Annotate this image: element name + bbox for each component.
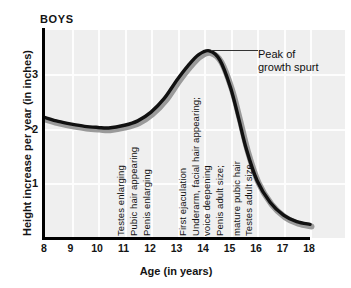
puberty-event-annotation: Penis enlarging <box>141 169 152 236</box>
peak-callout: Peak of growth spurt <box>258 48 319 74</box>
x-axis-tick-label: 11 <box>118 242 129 254</box>
puberty-event-annotation: Testes adult size <box>243 164 254 236</box>
x-axis-tick-label: 13 <box>171 242 183 254</box>
x-axis-tick-label: 16 <box>250 242 262 254</box>
x-axis-tick-label: 14 <box>197 242 209 254</box>
x-axis-tick-label: 10 <box>91 242 103 254</box>
y-axis-tick-label: 2 <box>14 123 38 135</box>
x-axis-tick-label: 18 <box>303 242 315 254</box>
x-axis-tick-label: 9 <box>68 242 74 254</box>
puberty-event-annotation: Underarm, facial hair appearing; <box>190 97 201 236</box>
puberty-event-annotation: voice deepening <box>201 165 212 236</box>
x-axis-tick-label: 15 <box>224 242 236 254</box>
peak-callout-line2: growth spurt <box>258 61 319 74</box>
x-axis-tick-label: 8 <box>41 242 47 254</box>
growth-rate-chart: BOYS Height increase per year (in inches… <box>0 0 351 288</box>
x-axis-tick-label: 17 <box>277 242 289 254</box>
peak-callout-line1: Peak of <box>258 48 319 61</box>
puberty-event-annotation: mature pubic hair <box>231 161 242 236</box>
y-axis-tick-label: 3 <box>14 68 38 80</box>
y-axis-ticks: 321 <box>12 0 38 288</box>
y-axis-line <box>42 28 45 240</box>
x-axis-line <box>42 237 310 240</box>
puberty-event-annotation: Penis adult size; <box>214 165 225 236</box>
callout-leader-line <box>211 50 258 52</box>
puberty-event-annotation: First ejaculation <box>177 168 188 236</box>
chart-title: BOYS <box>40 13 74 25</box>
y-axis-tick-label: 1 <box>14 177 38 189</box>
puberty-event-annotation: Testes enlarging <box>115 165 126 236</box>
x-axis-label: Age (in years) <box>42 265 310 277</box>
puberty-event-annotation: Pubic hair appearing <box>128 147 139 236</box>
x-axis-tick-label: 12 <box>144 242 156 254</box>
